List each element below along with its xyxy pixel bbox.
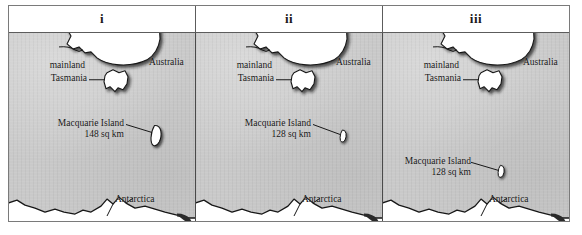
map-panel-iii: mainland Australia Tasmania Macquarie Is… bbox=[382, 33, 569, 221]
label-mainland-iii: mainland bbox=[387, 60, 459, 71]
label-macquarie-area-i: 148 sq km bbox=[29, 129, 124, 140]
label-antarctica-i: Antarctica bbox=[115, 194, 155, 205]
panel-header-ii: ii bbox=[195, 6, 382, 32]
label-antarctica-ii: Antarctica bbox=[302, 194, 342, 205]
tasmania-shape bbox=[291, 70, 315, 92]
map-panel-ii: mainland Australia Tasmania Macquarie Is… bbox=[195, 33, 382, 221]
tasmania-shape bbox=[478, 70, 502, 92]
tasmania-shape bbox=[104, 70, 128, 92]
label-tasmania-ii: Tasmania bbox=[206, 73, 274, 84]
panel-header-row: i ii iii bbox=[9, 6, 569, 33]
label-macquarie-name-i: Macquarie Island bbox=[29, 118, 124, 129]
map-panel-i: mainland Australia Tasmania Macquarie Is… bbox=[9, 33, 195, 221]
label-tasmania-i: Tasmania bbox=[19, 73, 87, 84]
macquarie-island-shape bbox=[498, 165, 504, 177]
macquarie-island-shape bbox=[151, 125, 161, 145]
label-macquarie-name-iii: Macquarie Island bbox=[382, 156, 471, 167]
macquarie-island-shape bbox=[340, 130, 346, 142]
label-macquarie-name-ii: Macquarie Island bbox=[216, 118, 311, 129]
label-australia-i: Australia bbox=[149, 57, 184, 68]
macquarie-leader-line bbox=[126, 125, 152, 133]
label-mainland-i: mainland bbox=[13, 60, 85, 71]
antarctica-shape bbox=[9, 197, 195, 221]
label-macquarie-area-ii: 128 sq km bbox=[216, 129, 311, 140]
label-antarctica-iii: Antarctica bbox=[489, 194, 529, 205]
label-australia-ii: Australia bbox=[336, 57, 371, 68]
figure-frame: i ii iii bbox=[8, 5, 570, 222]
panel-header-iii: iii bbox=[382, 6, 569, 32]
macquarie-leader-line bbox=[313, 125, 340, 135]
panel-header-i: i bbox=[9, 6, 195, 32]
panel-row: mainland Australia Tasmania Macquarie Is… bbox=[9, 33, 569, 221]
label-macquarie-area-iii: 128 sq km bbox=[382, 167, 471, 178]
antarctica-shape bbox=[383, 197, 569, 221]
macquarie-leader-line bbox=[471, 162, 498, 170]
antarctica-shape bbox=[196, 197, 382, 221]
label-tasmania-iii: Tasmania bbox=[393, 73, 461, 84]
label-australia-iii: Australia bbox=[523, 57, 558, 68]
label-mainland-ii: mainland bbox=[200, 60, 272, 71]
